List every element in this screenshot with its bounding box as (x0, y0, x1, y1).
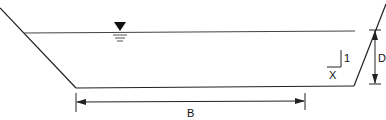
slope-horizontal-label: X (329, 69, 337, 81)
water-surface-line (24, 31, 355, 33)
channel-bed (76, 86, 354, 88)
slope-vertical-label: 1 (344, 52, 350, 64)
side-slope-indicator (327, 50, 341, 67)
right-bank-slope (354, 4, 386, 86)
bottom-width-label: B (187, 107, 194, 119)
depth-label: D (378, 52, 386, 64)
water-surface-triangle-icon (113, 22, 127, 41)
left-bank-slope (0, 8, 76, 88)
channel-cross-section-diagram: 1 X D B (0, 0, 386, 120)
